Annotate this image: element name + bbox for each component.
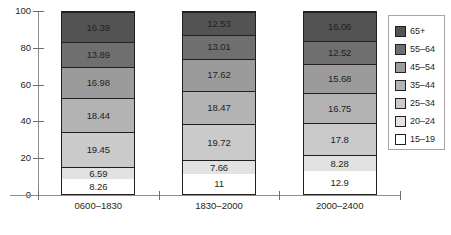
legend-color-swatch <box>395 26 406 37</box>
bar-segment[interactable]: 19.45 <box>62 132 134 167</box>
bar-segment-value-label: 13.01 <box>207 42 230 52</box>
bar-segment[interactable]: 7.66 <box>183 160 255 174</box>
x-axis-category-label: 2000–2400 <box>275 201 405 211</box>
bar-segment-value-label: 11 <box>214 179 224 189</box>
legend-color-swatch <box>395 44 406 55</box>
x-axis-tick <box>400 191 401 200</box>
bar-segment[interactable]: 18.47 <box>183 91 255 125</box>
bar-segment[interactable]: 13.89 <box>62 42 134 67</box>
bar[interactable]: 12.98.2817.816.7515.6812.5216.06 <box>303 11 377 195</box>
y-axis-tick-label: 20 <box>5 153 31 163</box>
bar-segment-value-label: 19.72 <box>207 138 230 148</box>
bar-segment-value-label: 12.9 <box>331 178 349 188</box>
bar-segment-value-label: 8.26 <box>89 182 107 192</box>
legend-item[interactable]: 45–54 <box>395 58 444 76</box>
bar-segment[interactable]: 16.06 <box>304 12 376 41</box>
x-axis-category-label: 1830–2000 <box>154 201 284 211</box>
y-axis-tick-label: 60 <box>5 80 31 90</box>
bar-segment-value-label: 16.06 <box>328 22 351 32</box>
bar-segment-value-label: 15.68 <box>328 74 351 84</box>
bar-segment[interactable]: 11 <box>183 174 255 194</box>
bar-segment-value-label: 6.59 <box>89 169 107 179</box>
bar[interactable]: 117.6619.7218.4717.6213.0112.53 <box>182 11 256 195</box>
legend-color-swatch <box>395 98 406 109</box>
legend-item[interactable]: 20–24 <box>395 112 444 130</box>
bar-segment[interactable]: 12.53 <box>183 12 255 35</box>
y-axis-tick-label: 40 <box>5 116 31 126</box>
bar-segment-value-label: 13.89 <box>87 50 110 60</box>
legend-item-label: 55–64 <box>410 45 435 54</box>
stacked-bar-chart: 020406080100 8.266.5919.4518.4416.9813.8… <box>0 0 451 235</box>
legend-color-swatch <box>395 116 406 127</box>
y-axis-tick-label-wrap: 20 <box>0 158 31 159</box>
bar-segment[interactable]: 17.8 <box>304 123 376 155</box>
legend-item[interactable]: 35–44 <box>395 76 444 94</box>
legend-item[interactable]: 25–34 <box>395 94 444 112</box>
legend-item[interactable]: 65+ <box>395 22 444 40</box>
bar-segment-value-label: 16.75 <box>328 104 351 114</box>
legend-item-label: 45–54 <box>410 63 435 72</box>
bar-segment-value-label: 12.52 <box>328 48 351 58</box>
bar-segment[interactable]: 8.26 <box>62 179 134 194</box>
x-axis-line <box>10 195 400 196</box>
bar-segment[interactable]: 16.98 <box>62 67 134 98</box>
legend-item-label: 35–44 <box>410 81 435 90</box>
legend-item-label: 25–34 <box>410 99 435 108</box>
bar-segment[interactable]: 15.68 <box>304 64 376 93</box>
bar-segment[interactable]: 19.72 <box>183 124 255 160</box>
y-axis-tick-label: 80 <box>5 43 31 53</box>
bar-segment[interactable]: 6.59 <box>62 167 134 179</box>
bar-segment[interactable]: 16.75 <box>304 93 376 123</box>
legend: 65+55–6445–5435–4425–3420–2415–19 <box>388 15 445 150</box>
legend-color-swatch <box>395 134 406 145</box>
bar-segment-value-label: 12.53 <box>207 19 230 29</box>
legend-item-label: 15–19 <box>410 135 435 144</box>
legend-item-label: 20–24 <box>410 117 435 126</box>
plot-area: 8.266.5919.4518.4416.9813.8916.39117.661… <box>38 11 400 195</box>
bar-segment[interactable]: 17.62 <box>183 59 255 91</box>
y-axis-tick-label-wrap: 40 <box>0 121 31 122</box>
x-axis-category-label: 0600–1830 <box>33 201 163 211</box>
bar-segment[interactable]: 8.28 <box>304 155 376 170</box>
bar-segment[interactable]: 18.44 <box>62 98 134 132</box>
bar-segment-value-label: 17.62 <box>207 70 230 80</box>
bar-segment-value-label: 18.47 <box>207 103 230 113</box>
bar-segment-value-label: 7.66 <box>210 163 228 173</box>
legend-item[interactable]: 15–19 <box>395 130 444 148</box>
y-axis-tick-label: 100 <box>5 6 31 16</box>
bar-segment[interactable]: 16.39 <box>62 12 134 42</box>
y-axis-tick-label-wrap: 60 <box>0 85 31 86</box>
legend-color-swatch <box>395 80 406 91</box>
bar-segment[interactable]: 13.01 <box>183 35 255 59</box>
bar[interactable]: 8.266.5919.4518.4416.9813.8916.39 <box>61 11 135 195</box>
bar-segment-value-label: 18.44 <box>87 111 110 121</box>
bar-segment[interactable]: 12.52 <box>304 41 376 64</box>
bar-segment-value-label: 17.8 <box>331 135 349 145</box>
legend-color-swatch <box>395 62 406 73</box>
y-axis-tick-label-wrap: 100 <box>0 11 31 12</box>
legend-item-label: 65+ <box>410 27 425 36</box>
bar-segment-value-label: 19.45 <box>87 145 110 155</box>
bar-segment-value-label: 16.98 <box>87 78 110 88</box>
bar-segment[interactable]: 12.9 <box>304 171 376 194</box>
y-axis-tick-label-wrap: 80 <box>0 48 31 49</box>
bar-segment-value-label: 8.28 <box>331 159 349 169</box>
legend-item[interactable]: 55–64 <box>395 40 444 58</box>
bar-segment-value-label: 16.39 <box>87 23 110 33</box>
